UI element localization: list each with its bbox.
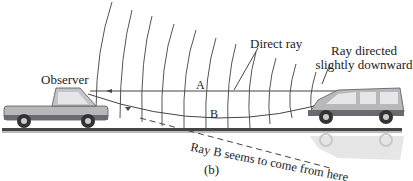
arrowheads [106,89,131,111]
observer-label: Observer [41,72,89,88]
figure-caption: (b) [204,162,219,178]
downward-ray-label: Ray directed slightly downward [314,44,413,72]
direct-ray-label: Direct ray [250,36,302,52]
arrow-b [125,107,131,111]
arrow-a [106,89,112,93]
direct-ray-leader [234,48,258,90]
wavefronts [96,2,316,130]
road [2,128,402,133]
minivan [308,88,404,124]
ray-b-label: B [210,107,218,122]
mirage-reflection [310,134,404,160]
pickup-truck [4,88,108,128]
ray-a-label: A [196,78,205,93]
